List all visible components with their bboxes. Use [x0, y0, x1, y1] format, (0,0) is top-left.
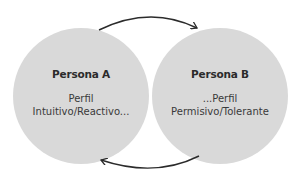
relationship-diagram: Persona A Perfil Intuitivo/Reactivo... P… — [0, 0, 302, 183]
arrows-layer — [0, 0, 302, 183]
arrow-a-to-b-icon — [99, 17, 197, 30]
arrow-b-to-a-icon — [101, 156, 199, 168]
